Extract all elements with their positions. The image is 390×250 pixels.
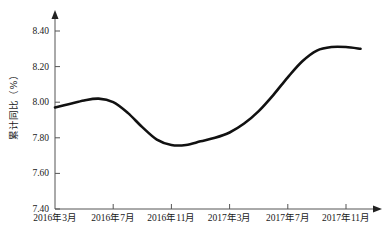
x-axis-tick-label: 2017年11月 — [322, 213, 370, 224]
data-series-line — [55, 47, 361, 146]
chart-figure: 累计同比（%） 8.408.208.007.807.607.40 2016年3月… — [0, 0, 390, 250]
y-axis-tick-label: 8.00 — [9, 97, 49, 107]
x-axis-arrow-icon — [373, 206, 382, 213]
x-axis-tick-label: 2016年7月 — [91, 213, 135, 224]
y-axis-arrow-icon — [52, 10, 59, 19]
x-axis-tick-label: 2017年7月 — [266, 213, 310, 224]
x-axis-tick-label: 2016年11月 — [147, 213, 195, 224]
y-axis-tick-label: 7.80 — [9, 133, 49, 143]
y-axis-ticks — [55, 31, 60, 209]
x-axis-tick-label: 2016年3月 — [33, 213, 77, 224]
y-axis-tick-label: 8.20 — [9, 62, 49, 72]
x-axis-ticks — [113, 204, 346, 209]
y-axis-tick-label: 7.60 — [9, 168, 49, 178]
x-axis-tick-label: 2017年3月 — [208, 213, 252, 224]
y-axis-tick-label: 8.40 — [9, 26, 49, 36]
